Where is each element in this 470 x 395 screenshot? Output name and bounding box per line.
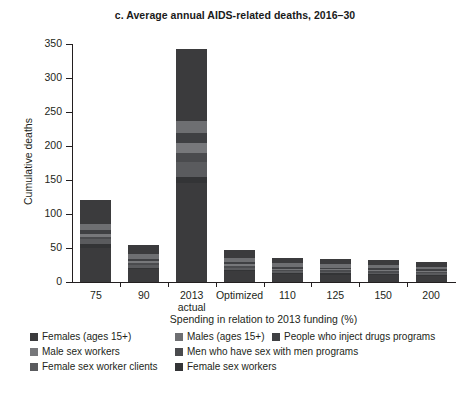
bar-segment <box>176 143 207 153</box>
x-tick-label: 90 <box>120 289 168 301</box>
y-axis-label: Cumulative deaths <box>22 118 34 205</box>
x-tick-mark <box>311 282 312 287</box>
x-tick-mark <box>120 282 121 287</box>
x-tick-mark <box>216 282 217 287</box>
bar-segment <box>272 274 303 282</box>
bar-segment <box>320 275 351 282</box>
legend-swatch-icon <box>30 363 38 371</box>
legend-item[interactable]: Male sex workers <box>30 346 120 357</box>
x-tick-label: 110 <box>264 289 312 301</box>
y-tick-label: 300 <box>20 71 62 83</box>
bar-segment <box>416 276 447 282</box>
legend-swatch-icon <box>272 333 280 341</box>
y-tick-label: 150 <box>20 173 62 185</box>
bar-90 <box>128 245 159 282</box>
legend-label: Female sex workers <box>187 361 276 372</box>
legend-label: Female sex worker clients <box>42 361 158 372</box>
y-tick-mark <box>66 282 72 283</box>
bar-200 <box>416 262 447 282</box>
legend-label: Male sex workers <box>42 346 120 357</box>
bar-2013-actual <box>176 49 207 282</box>
bar-segment <box>368 275 399 282</box>
y-tick-label: 0 <box>20 275 62 287</box>
bar-segment <box>176 153 207 162</box>
y-tick-label: 350 <box>20 37 62 49</box>
bar-segment <box>176 133 207 143</box>
legend-swatch-icon <box>175 363 183 371</box>
x-tick-label: Optimized <box>216 289 264 301</box>
legend-item[interactable]: Female sex workers <box>175 361 276 372</box>
x-tick-label: 125 <box>311 289 359 301</box>
legend-label: Females (ages 15+) <box>42 331 131 342</box>
legend-row: Male sex workersMen who have sex with me… <box>30 346 460 361</box>
x-tick-label: 2013 actual <box>168 289 216 313</box>
chart-figure: c. Average annual AIDS-related deaths, 2… <box>0 0 470 395</box>
legend-row: Female sex worker clientsFemale sex work… <box>30 361 460 376</box>
legend-label: Men who have sex with men programs <box>187 346 358 357</box>
bar-segment <box>128 245 159 254</box>
bar-segment <box>80 248 111 282</box>
legend-item[interactable]: Males (ages 15+) <box>175 331 265 342</box>
legend-item[interactable]: People who inject drugs programs <box>272 331 435 342</box>
y-tick-label: 200 <box>20 139 62 151</box>
bar-segment <box>224 271 255 282</box>
bar-125 <box>320 259 351 282</box>
legend-swatch-icon <box>30 348 38 356</box>
bar-segment <box>176 49 207 120</box>
legend-row: Females (ages 15+)Males (ages 15+)People… <box>30 331 460 346</box>
x-tick-mark <box>168 282 169 287</box>
bar-Optimized <box>224 250 255 282</box>
bar-segment <box>176 177 207 184</box>
chart-legend: Females (ages 15+)Males (ages 15+)People… <box>30 331 460 376</box>
legend-label: People who inject drugs programs <box>284 331 435 342</box>
y-tick-label: 100 <box>20 207 62 219</box>
y-tick-label: 50 <box>20 241 62 253</box>
x-tick-mark <box>264 282 265 287</box>
x-tick-label: 150 <box>359 289 407 301</box>
bar-75 <box>80 200 111 282</box>
legend-swatch-icon <box>175 333 183 341</box>
x-tick-label: 75 <box>72 289 120 301</box>
legend-swatch-icon <box>30 333 38 341</box>
legend-item[interactable]: Female sex worker clients <box>30 361 158 372</box>
legend-label: Males (ages 15+) <box>187 331 265 342</box>
legend-item[interactable]: Females (ages 15+) <box>30 331 131 342</box>
x-axis-label: Spending in relation to 2013 funding (%) <box>72 313 455 325</box>
legend-swatch-icon <box>175 348 183 356</box>
x-tick-mark <box>359 282 360 287</box>
bar-segment <box>176 121 207 133</box>
legend-item[interactable]: Men who have sex with men programs <box>175 346 358 357</box>
bar-segment <box>128 269 159 282</box>
bar-segment <box>224 250 255 258</box>
bar-110 <box>272 258 303 282</box>
x-tick-mark <box>407 282 408 287</box>
bar-segment <box>176 162 207 177</box>
x-tick-label: 200 <box>407 289 455 301</box>
bar-segment <box>80 200 111 225</box>
bar-150 <box>368 260 399 282</box>
plot-area <box>72 44 455 282</box>
chart-title: c. Average annual AIDS-related deaths, 2… <box>0 9 470 21</box>
y-tick-label: 250 <box>20 105 62 117</box>
bar-segment <box>176 183 207 282</box>
